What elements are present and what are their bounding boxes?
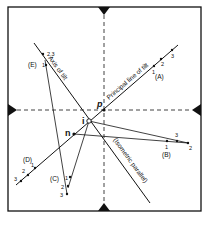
label-group-a: (A) xyxy=(155,73,164,81)
label-e23: 2,3 xyxy=(47,51,55,57)
mark-c3 xyxy=(66,193,68,195)
mark-d3 xyxy=(20,180,22,182)
mark-a2 xyxy=(160,58,162,60)
label-d1: 1 xyxy=(31,162,34,168)
mark-d2 xyxy=(27,174,29,176)
point-i xyxy=(87,119,91,123)
label-c1: 1 xyxy=(65,175,68,181)
mark-a1 xyxy=(153,65,155,67)
mark-d1 xyxy=(34,167,36,169)
mark-b2 xyxy=(187,142,189,144)
label-d3: 3 xyxy=(14,176,17,182)
point-n xyxy=(72,132,75,135)
label-i: i xyxy=(82,116,85,126)
point-p xyxy=(102,108,105,111)
label-a2: 2 xyxy=(161,61,164,67)
mark-e23 xyxy=(42,53,44,55)
mark-c2 xyxy=(67,185,69,187)
fiducial-bottom-icon xyxy=(98,203,110,211)
mark-a3 xyxy=(171,49,173,51)
tilt-geometry-diagram: p i n Principal line of tilt Axis of til… xyxy=(0,0,209,230)
ray-n-to-b xyxy=(74,134,188,143)
label-e1: 1 xyxy=(42,62,45,68)
label-a3: 3 xyxy=(171,53,174,59)
label-b2: 2 xyxy=(189,145,192,151)
label-group-e: (E) xyxy=(28,61,37,69)
label-group-c: (C) xyxy=(50,175,59,183)
label-b1: 1 xyxy=(165,144,168,150)
fiducial-top-icon xyxy=(98,7,110,15)
label-n: n xyxy=(65,128,71,138)
mark-e1 xyxy=(45,64,47,66)
label-isometric-parallel: (Isometric parallel) xyxy=(111,136,149,184)
label-c3: 3 xyxy=(60,192,63,198)
mark-b3 xyxy=(176,140,178,142)
label-b3: 3 xyxy=(175,132,178,138)
label-p: p xyxy=(96,99,103,109)
label-principal-line: Principal line of tilt xyxy=(105,61,150,101)
label-c2: 2 xyxy=(61,184,64,190)
mark-b1 xyxy=(166,140,168,142)
mark-c1 xyxy=(69,176,71,178)
label-d2: 2 xyxy=(22,168,25,174)
fiducial-left-icon xyxy=(8,104,17,116)
label-group-b: (B) xyxy=(162,151,171,159)
fiducial-right-icon xyxy=(192,104,201,116)
